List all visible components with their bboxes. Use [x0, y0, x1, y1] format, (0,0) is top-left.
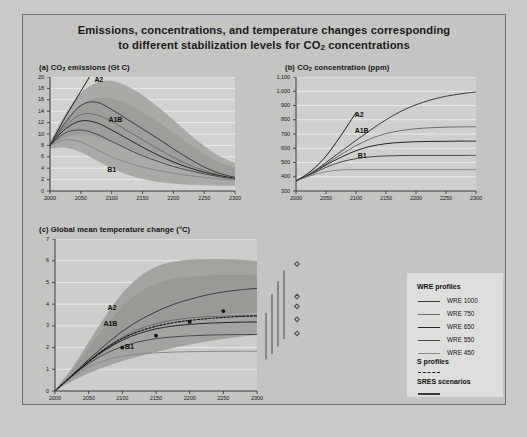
curve-label-a2: A2 — [355, 111, 364, 118]
y-tick-label: 5 — [19, 279, 49, 285]
x-tick-label: 2100 — [99, 195, 125, 201]
y-tick-label: 6 — [14, 153, 44, 159]
legend-label-wre-1000: WRE 1000 — [447, 297, 478, 304]
legend-heading-wre: WRE profiles — [417, 283, 461, 290]
y-tick-label: 10 — [14, 131, 44, 137]
y-tick-label: 2 — [19, 344, 49, 350]
y-tick-label: 7 — [19, 236, 49, 242]
x-tick-label: 2200 — [177, 395, 203, 401]
y-tick-label: 1,000 — [260, 88, 290, 94]
x-tick-label: 2250 — [210, 395, 236, 401]
panel-a-title: (a) CO2 emissions (Gt C) — [39, 63, 130, 72]
x-tick-label: 2050 — [68, 195, 94, 201]
x-tick-label: 2150 — [143, 395, 169, 401]
y-tick-label: 700 — [260, 131, 290, 137]
y-tick-label: 4 — [14, 165, 44, 171]
curve-label-a2: A2 — [108, 304, 117, 311]
y-tick-label: 800 — [260, 116, 290, 122]
panel-c-uncertainty-bars — [259, 239, 305, 391]
x-tick-label: 2200 — [403, 195, 429, 201]
curve-label-b1: B1 — [107, 166, 116, 173]
y-tick-label: 3 — [19, 322, 49, 328]
x-tick-label: 2000 — [283, 195, 309, 201]
y-tick-label: 900 — [260, 102, 290, 108]
x-tick-label: 2200 — [160, 195, 186, 201]
y-tick-label: 1 — [19, 366, 49, 372]
legend-heading-s: S profiles — [417, 358, 449, 365]
legend-heading-sres: SRES scenarios — [417, 378, 471, 385]
legend: WRE profiles WRE 1000WRE 750WRE 650WRE 5… — [407, 273, 503, 397]
legend-label-wre-750: WRE 750 — [447, 310, 474, 317]
y-tick-label: 12 — [14, 119, 44, 125]
curve-label-a1b: A1B — [355, 127, 369, 134]
panel-c-title: (c) Global mean temperature change (°C) — [39, 225, 190, 234]
y-tick-label: 14 — [14, 108, 44, 114]
y-tick-label: 4 — [19, 301, 49, 307]
x-tick-label: 2000 — [42, 395, 68, 401]
x-tick-label: 2300 — [222, 195, 248, 201]
y-tick-label: 20 — [14, 74, 44, 80]
legend-swatch-wre-550 — [418, 340, 440, 341]
figure-frame: Emissions, concentrations, and temperatu… — [22, 14, 506, 405]
legend-label-wre-550: WRE 550 — [447, 336, 474, 343]
figure-title: Emissions, concentrations, and temperatu… — [23, 23, 505, 55]
x-tick-label: 2300 — [244, 395, 270, 401]
x-tick-label: 2000 — [37, 195, 63, 201]
x-tick-label: 2100 — [109, 395, 135, 401]
legend-swatch-wre-1000 — [418, 301, 440, 302]
panel-b-title: (b) CO2 concentration (ppm) — [285, 63, 389, 72]
figure-title-line2: to different stabilization levels for CO… — [23, 38, 505, 55]
y-tick-label: 0 — [19, 388, 49, 394]
y-tick-label: 16 — [14, 96, 44, 102]
legend-swatch-s-profiles — [418, 372, 440, 373]
legend-swatch-wre-650 — [418, 327, 440, 328]
curve-label-a1b: A1B — [103, 320, 117, 327]
y-tick-label: 500 — [260, 159, 290, 165]
x-tick-label: 2100 — [343, 195, 369, 201]
legend-swatch-sres — [418, 393, 440, 395]
x-tick-label: 2150 — [373, 195, 399, 201]
figure-title-line1: Emissions, concentrations, and temperatu… — [23, 23, 505, 38]
x-tick-label: 2050 — [76, 395, 102, 401]
x-tick-label: 2150 — [130, 195, 156, 201]
y-tick-label: 0 — [14, 188, 44, 194]
x-tick-label: 2050 — [313, 195, 339, 201]
y-tick-label: 400 — [260, 173, 290, 179]
legend-swatch-wre-750 — [418, 314, 440, 315]
y-tick-label: 8 — [14, 142, 44, 148]
x-tick-label: 2250 — [191, 195, 217, 201]
y-tick-label: 2 — [14, 176, 44, 182]
legend-label-wre-650: WRE 650 — [447, 323, 474, 330]
legend-swatch-wre-450 — [418, 353, 440, 354]
y-tick-label: 600 — [260, 145, 290, 151]
y-tick-label: 1,100 — [260, 74, 290, 80]
legend-label-wre-450: WRE 450 — [447, 349, 474, 356]
curve-label-b1: B1 — [125, 343, 134, 350]
curve-label-a2: A2 — [94, 76, 103, 83]
curve-label-a1b: A1B — [109, 116, 123, 123]
y-tick-label: 6 — [19, 257, 49, 263]
curve-label-b1: B1 — [358, 152, 367, 159]
y-tick-label: 18 — [14, 85, 44, 91]
x-tick-label: 2300 — [463, 195, 489, 201]
x-tick-label: 2250 — [433, 195, 459, 201]
y-tick-label: 300 — [260, 188, 290, 194]
figure-caption — [46, 423, 486, 437]
